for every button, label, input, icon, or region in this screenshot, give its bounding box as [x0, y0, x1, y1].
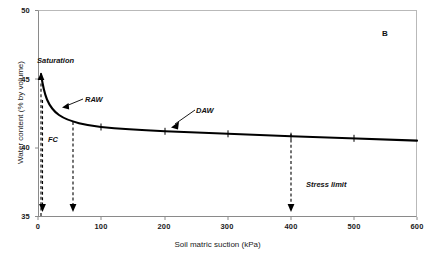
raw-leader-arrow — [62, 99, 83, 109]
retention-curve — [41, 74, 417, 141]
fc-reference-arrow — [39, 100, 46, 212]
stress-limit-reference-arrow — [288, 134, 295, 212]
y-axis-ticks — [35, 11, 38, 217]
saturation-reference-arrow — [38, 73, 45, 217]
soil-water-retention-figure: 50 45 40 35 0 100 200 300 400 500 600 So… — [0, 0, 435, 257]
curve-data-markers — [101, 124, 354, 142]
daw-leader-arrow — [171, 110, 195, 130]
x-axis-ticks — [38, 217, 417, 220]
raw-limit-reference-arrow — [70, 122, 77, 212]
plot-graphics-overlay — [0, 0, 435, 257]
